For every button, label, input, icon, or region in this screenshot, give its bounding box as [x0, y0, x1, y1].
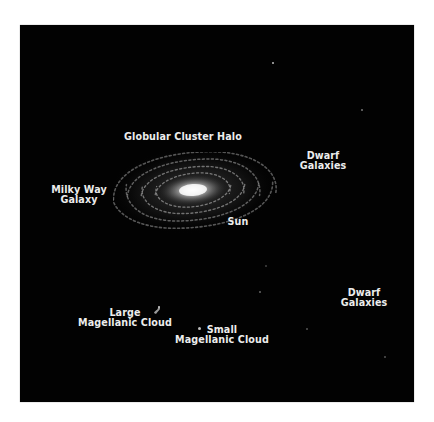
- faint-star: [265, 265, 267, 267]
- label-line-2: Galaxies: [300, 161, 347, 171]
- dwarf-galaxies-upper-label: Dwarf Galaxies: [300, 151, 347, 171]
- label-text: Sun: [228, 217, 249, 227]
- large-magellanic-cloud-label: Large Magellanic Cloud: [78, 308, 172, 328]
- globular-cluster-halo-label: Globular Cluster Halo: [124, 132, 242, 142]
- label-line-2: Magellanic Cloud: [78, 318, 172, 328]
- milky-way-galaxy-label: Milky Way Galaxy: [51, 185, 107, 205]
- label-line-2: Galaxies: [341, 298, 388, 308]
- label-line-2: Magellanic Cloud: [175, 335, 269, 345]
- label-text: Globular Cluster Halo: [124, 132, 242, 142]
- faint-star: [384, 356, 386, 358]
- milky-way-galaxy-image: [113, 152, 287, 238]
- faint-star: [259, 291, 261, 293]
- faint-star: [361, 109, 363, 111]
- sun-label: Sun: [228, 217, 249, 227]
- label-line-2: Galaxy: [51, 195, 107, 205]
- faint-star: [306, 328, 308, 330]
- small-magellanic-cloud-label: Small Magellanic Cloud: [175, 325, 269, 345]
- faint-star: [272, 62, 274, 64]
- dwarf-galaxies-lower-label: Dwarf Galaxies: [341, 288, 388, 308]
